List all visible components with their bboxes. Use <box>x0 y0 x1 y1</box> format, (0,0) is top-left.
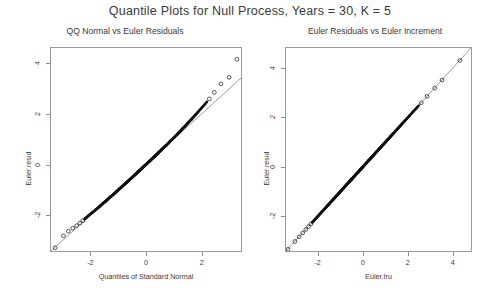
y-tick-label-1-3: -2 <box>268 209 278 223</box>
y-tick-label-0-3: -2 <box>33 208 43 222</box>
x-tick-1-2 <box>408 252 409 256</box>
y-tick-0-2 <box>46 165 50 166</box>
y-tick-1-0 <box>281 68 285 69</box>
x-tick-label-1-2: 2 <box>398 258 418 267</box>
x-tick-label-1-3: 4 <box>443 258 463 267</box>
y-axis-label-left: Euler.resid <box>24 139 33 199</box>
scatter-canvas-right <box>286 48 471 251</box>
y-tick-0-1 <box>46 114 50 115</box>
y-tick-1-2 <box>281 167 285 168</box>
scatter-canvas-left <box>51 48 241 251</box>
x-tick-1-1 <box>363 252 364 256</box>
x-tick-0-0 <box>90 252 91 256</box>
plot-area-right <box>285 47 472 252</box>
y-tick-0-0 <box>46 63 50 64</box>
x-tick-1-0 <box>318 252 319 256</box>
x-axis-label-left: Quantiles of Standard Normal <box>50 272 242 281</box>
panel-title-left: QQ Normal vs Euler Residuals <box>0 26 250 36</box>
figure-root: Quantile Plots for Null Process, Years =… <box>0 0 500 297</box>
y-tick-label-0-0: 4 <box>33 56 43 70</box>
x-tick-0-2 <box>202 252 203 256</box>
y-tick-0-3 <box>46 215 50 216</box>
x-tick-label-0-1: 0 <box>136 258 156 267</box>
x-axis-label-right: Euler.tru <box>285 272 472 281</box>
y-tick-label-1-2: 0 <box>268 160 278 174</box>
x-tick-1-3 <box>453 252 454 256</box>
figure-title: Quantile Plots for Null Process, Years =… <box>0 4 500 18</box>
panel-resid-vs-increment: Euler Residuals vs Euler Increment Euler… <box>250 26 500 297</box>
y-tick-1-1 <box>281 117 285 118</box>
y-tick-label-0-2: 0 <box>33 158 43 172</box>
y-tick-1-3 <box>281 216 285 217</box>
x-tick-label-1-0: -2 <box>308 258 328 267</box>
x-tick-label-1-1: 0 <box>353 258 373 267</box>
y-tick-label-1-1: 2 <box>268 110 278 124</box>
x-tick-label-0-2: 2 <box>192 258 212 267</box>
panel-title-right: Euler Residuals vs Euler Increment <box>250 26 500 36</box>
y-tick-label-1-0: 4 <box>268 61 278 75</box>
x-tick-label-0-0: -2 <box>80 258 100 267</box>
y-tick-label-0-1: 2 <box>33 107 43 121</box>
plot-area-left <box>50 47 242 252</box>
x-tick-0-1 <box>146 252 147 256</box>
